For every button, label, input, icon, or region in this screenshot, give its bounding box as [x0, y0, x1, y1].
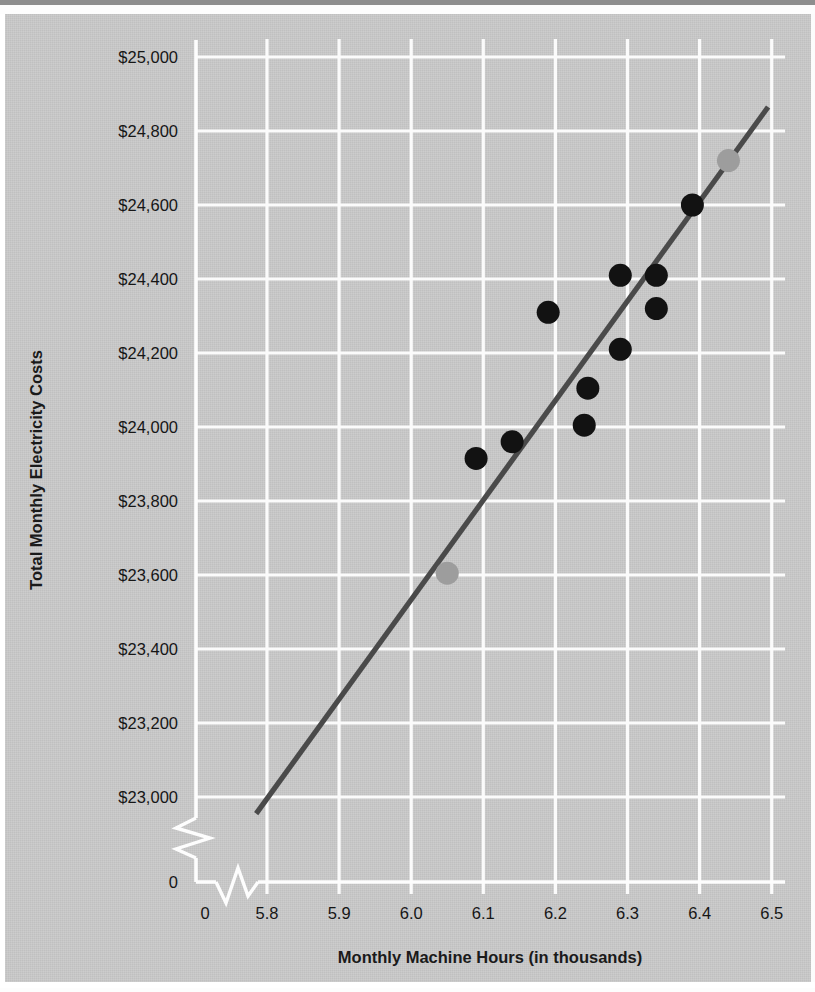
y-tick-label: $24,200: [118, 344, 178, 362]
data-point: [573, 414, 596, 437]
y-tick-label: $23,000: [118, 788, 178, 806]
data-point: [465, 447, 488, 470]
chart-page: $23,000$23,200$23,400$23,600$23,800$24,0…: [0, 0, 815, 992]
x-tick-label: 6.0: [400, 904, 423, 922]
x-tick-label: 6.1: [472, 904, 495, 922]
x-tick-label: 6.2: [544, 904, 567, 922]
data-point: [537, 301, 560, 324]
y-tick-label: $23,400: [118, 640, 178, 658]
x-axis-title: Monthly Machine Hours (in thousands): [338, 948, 642, 966]
data-points-group: [436, 149, 740, 585]
data-point: [645, 264, 668, 287]
x-origin-label: 0: [200, 904, 209, 922]
data-point: [501, 430, 524, 453]
data-point: [717, 149, 740, 172]
x-tick-label: 5.9: [328, 904, 351, 922]
x-tick-label: 6.5: [760, 904, 783, 922]
data-point: [576, 377, 599, 400]
data-point: [609, 264, 632, 287]
y-tick-label: $24,600: [118, 196, 178, 214]
x-tick-label: 5.8: [256, 904, 279, 922]
scatter-chart: $23,000$23,200$23,400$23,600$23,800$24,0…: [0, 0, 815, 992]
y-tick-label: $23,600: [118, 566, 178, 584]
y-tick-label: $24,000: [118, 418, 178, 436]
x-axis-break-icon: [216, 868, 258, 903]
y-axis-title: Total Monthly Electricity Costs: [27, 350, 45, 590]
x-tick-label: 6.4: [688, 904, 711, 922]
y-origin-label: 0: [169, 873, 178, 891]
x-tick-labels-group: 5.85.96.06.16.26.36.46.5: [256, 904, 784, 922]
y-tick-label: $23,200: [118, 714, 178, 732]
data-point: [681, 194, 704, 217]
data-point: [609, 338, 632, 361]
x-tick-label: 6.3: [616, 904, 639, 922]
y-axis-break-icon: [176, 818, 210, 858]
data-point: [645, 297, 668, 320]
gridlines-group: [196, 39, 785, 882]
y-tick-label: $24,800: [118, 122, 178, 140]
data-point: [436, 562, 459, 585]
y-tick-label: $24,400: [118, 270, 178, 288]
y-tick-labels-group: $23,000$23,200$23,400$23,600$23,800$24,0…: [118, 48, 178, 806]
y-tick-label: $25,000: [118, 48, 178, 66]
y-tick-label: $23,800: [118, 492, 178, 510]
